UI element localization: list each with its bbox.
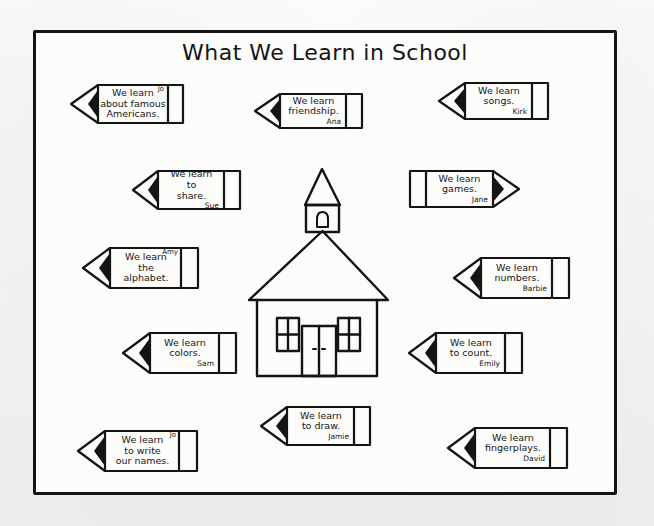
pencil-graphite-tip [270, 99, 280, 123]
pencil-numbers: We learn numbers. Barbie [451, 255, 573, 301]
pencil-graphite-tip [148, 176, 158, 204]
roof [249, 231, 388, 300]
pencil-graphite-tip [139, 338, 150, 368]
pencil-graphite-tip [94, 436, 105, 466]
pencil-graphite-tip [493, 176, 504, 202]
pencil-graphite-tip [99, 253, 110, 283]
pencil-outline [71, 85, 183, 123]
pencil-graphite-tip [470, 263, 481, 293]
pencil-write-names: Jo We learn to write our names. [75, 428, 201, 474]
bell-icon [317, 212, 328, 227]
pencil-graphite-tip [276, 412, 287, 440]
pencil-famous-americans: Jo We learn about famous Americans. [68, 82, 188, 126]
pencil-friendship: We learn friendship. Ana [252, 91, 366, 131]
pencil-graphite-tip [464, 433, 475, 463]
pencil-draw: We learn to draw. Jamie [258, 404, 374, 448]
pencil-graphite-tip [425, 338, 436, 368]
worksheet-page: What We Learn in School [0, 0, 654, 526]
pencil-alphabet: Amy We learn the alphabet. [80, 245, 202, 291]
pencil-graphite-tip [454, 88, 465, 114]
pencil-share: We learn to share. Sue [130, 168, 244, 212]
page-title: What We Learn in School [33, 40, 617, 65]
schoolhouse-illustration [243, 163, 393, 383]
pencil-colors: We learn colors. Sam [120, 330, 240, 376]
bell-tower-roof [305, 169, 340, 205]
pencil-count: We learn to count. Emily [406, 330, 526, 376]
pencil-songs: We learn songs. Kirk [436, 80, 552, 122]
pencil-fingerplays: We learn fingerplays. David [445, 425, 571, 471]
pencil-games: We learn games. Jane [406, 168, 522, 210]
pencil-graphite-tip [88, 90, 98, 118]
